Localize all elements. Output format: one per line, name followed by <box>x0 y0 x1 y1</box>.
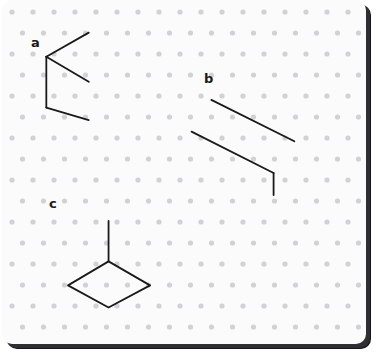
figure-label-c: c <box>49 197 57 210</box>
b-upper-diagonal[interactable] <box>211 100 294 141</box>
geoboard-canvas-card[interactable]: a b c <box>2 0 366 344</box>
b-lower-diagonal[interactable] <box>192 132 274 173</box>
figure-label-a: a <box>31 36 40 49</box>
figure-drawing-layer[interactable] <box>2 0 366 344</box>
a-upper-arm[interactable] <box>46 33 88 57</box>
a-middle-arm[interactable] <box>46 57 88 82</box>
c-rhombus[interactable] <box>68 261 150 307</box>
geoboard-app: a b c <box>0 0 386 358</box>
figure-label-b: b <box>204 72 213 85</box>
a-lower-arm[interactable] <box>46 108 88 120</box>
